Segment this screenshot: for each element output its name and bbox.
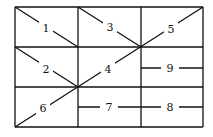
label-6: 6 xyxy=(40,102,47,115)
label-4: 4 xyxy=(105,63,112,76)
numbered-grid-diagram: 1 2 3 4 5 6 7 8 9 xyxy=(0,0,213,137)
label-9: 9 xyxy=(167,62,174,75)
label-5: 5 xyxy=(168,23,175,36)
label-7: 7 xyxy=(106,101,113,114)
label-8: 8 xyxy=(167,101,174,114)
label-1: 1 xyxy=(43,22,50,35)
label-2: 2 xyxy=(43,63,50,76)
label-3: 3 xyxy=(107,21,114,34)
